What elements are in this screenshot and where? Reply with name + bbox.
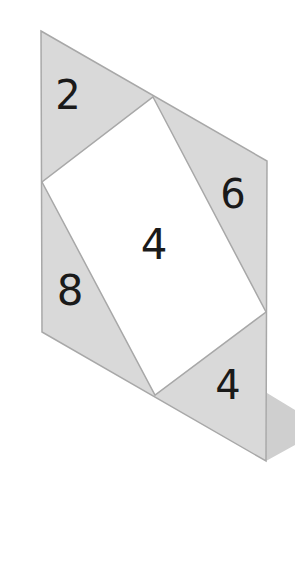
label-bottom-left-triangle: 8: [57, 266, 84, 315]
label-top-left-triangle: 2: [55, 72, 80, 118]
label-center-rectangle: 4: [141, 220, 168, 269]
diagram-canvas: 2 6 4 8 4: [0, 0, 295, 574]
label-bottom-right-triangle: 4: [215, 362, 240, 408]
label-top-right-triangle: 6: [220, 171, 245, 217]
shadow: [266, 393, 295, 461]
